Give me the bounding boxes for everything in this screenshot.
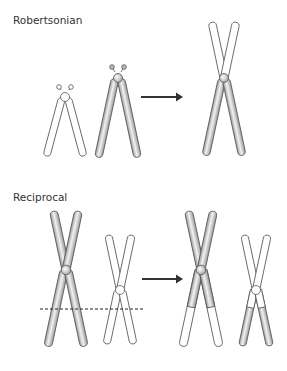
derivative-large-chromosome xyxy=(179,210,223,347)
translocation-diagram xyxy=(0,0,287,371)
large-acrocentric-chromosome xyxy=(95,65,142,158)
fused-chromosome xyxy=(202,21,246,156)
small-acrocentric-chromosome xyxy=(43,85,87,157)
small-white-chromosome xyxy=(103,234,137,344)
large-shaded-chromosome xyxy=(44,210,88,347)
derivative-small-chromosome xyxy=(239,234,274,346)
arrow-icon xyxy=(142,275,183,284)
arrow-icon xyxy=(141,93,183,102)
